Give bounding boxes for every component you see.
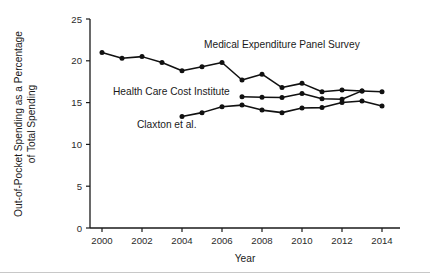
data-point — [300, 91, 305, 96]
data-point — [360, 88, 365, 93]
data-point — [280, 110, 285, 115]
data-point — [360, 98, 365, 103]
data-point — [280, 95, 285, 100]
data-point — [320, 89, 325, 94]
data-point — [120, 56, 125, 61]
data-point — [340, 88, 345, 93]
data-point — [240, 94, 245, 99]
data-point — [260, 72, 265, 77]
x-axis-ticks: 20002002200420062008201020122014 — [91, 228, 393, 246]
data-point — [200, 110, 205, 115]
data-point — [240, 78, 245, 83]
y-tick-label: 0 — [77, 223, 82, 234]
line-chart-canvas: 0510152025 20002002200420062008201020122… — [0, 0, 430, 273]
y-axis-title-line-2: of Total Spending — [26, 84, 37, 163]
data-point — [100, 50, 105, 55]
data-point — [260, 95, 265, 100]
y-axis-title-line-1: Out-of-Pocket Spending as a Percentage — [13, 31, 24, 217]
chart-figure: 0510152025 20002002200420062008201020122… — [0, 0, 430, 273]
data-point — [160, 60, 165, 65]
data-point — [280, 85, 285, 90]
y-tick-label: 15 — [71, 97, 82, 108]
x-tick-label: 2004 — [171, 235, 193, 246]
x-tick-label: 2008 — [251, 235, 272, 246]
series-label-meps: Medical Expenditure Panel Survey — [204, 39, 361, 50]
x-tick-label: 2010 — [291, 235, 312, 246]
data-point — [200, 64, 205, 69]
data-point — [320, 105, 325, 110]
data-point — [300, 81, 305, 86]
series-claxton-et-al — [180, 98, 385, 118]
x-tick-label: 2002 — [131, 235, 152, 246]
data-point — [140, 54, 145, 59]
y-axis-title: Out-of-Pocket Spending as a Percentage o… — [13, 31, 37, 217]
data-point — [220, 104, 225, 109]
series-layer — [100, 50, 385, 119]
y-tick-label: 25 — [71, 14, 82, 25]
y-axis-ticks: 0510152025 — [71, 14, 90, 234]
data-point — [320, 96, 325, 101]
x-tick-label: 2012 — [331, 235, 352, 246]
series-label-claxton: Claxton et al. — [137, 119, 196, 130]
y-tick-label: 10 — [71, 139, 82, 150]
data-point — [340, 100, 345, 105]
series-label-hcci: Health Care Cost Institute — [113, 86, 230, 97]
y-tick-label: 20 — [71, 55, 82, 66]
data-point — [380, 103, 385, 108]
x-tick-label: 2000 — [91, 235, 112, 246]
data-point — [220, 60, 225, 65]
data-point — [260, 108, 265, 113]
x-axis-title: Year — [235, 253, 256, 264]
data-point — [300, 106, 305, 111]
data-point — [380, 89, 385, 94]
x-tick-label: 2014 — [371, 235, 393, 246]
y-tick-label: 5 — [77, 181, 82, 192]
data-point — [180, 68, 185, 73]
data-point — [240, 103, 245, 108]
x-tick-label: 2006 — [211, 235, 232, 246]
